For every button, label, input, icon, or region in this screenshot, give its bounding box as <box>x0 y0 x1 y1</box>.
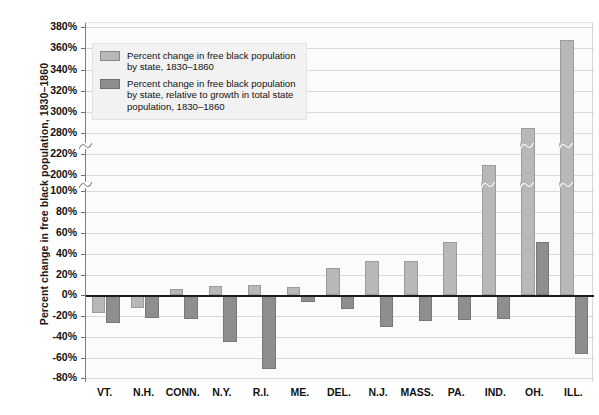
y-axis-tick-label: 300% <box>3 105 77 117</box>
y-axis-tick-label: 40% <box>3 247 77 259</box>
y-axis-tick-label: -40% <box>3 330 77 342</box>
y-axis-tick-mark <box>81 191 85 192</box>
y-axis-tick-label: 200% <box>3 168 77 180</box>
y-axis-tick-label: 380% <box>3 20 77 32</box>
y-axis-tick-label: -60% <box>3 351 77 363</box>
bar <box>184 295 198 319</box>
legend-entry-label: Percent change in free black population … <box>127 50 296 73</box>
gridline <box>86 316 594 317</box>
gridline <box>86 254 594 255</box>
y-axis-tick-label: 340% <box>3 63 77 75</box>
y-axis-tick-label: 0% <box>3 288 77 300</box>
y-axis-tick-label: 280% <box>3 126 77 138</box>
y-axis-tick-mark <box>81 133 85 134</box>
bar <box>404 261 418 295</box>
legend-swatch-icon <box>100 51 120 61</box>
bar <box>223 295 237 342</box>
y-axis-tick-mark <box>81 295 85 296</box>
gridline <box>86 275 594 276</box>
bar <box>458 295 472 320</box>
y-axis-tick-mark <box>81 48 85 49</box>
y-axis-tick-label: 320% <box>3 84 77 96</box>
gridline <box>86 337 594 338</box>
y-axis-tick-label: 360% <box>3 41 77 53</box>
y-axis-tick-mark <box>81 175 85 176</box>
bar <box>575 295 589 354</box>
bar <box>341 295 355 309</box>
bar <box>419 295 433 321</box>
y-axis-tick-mark <box>81 27 85 28</box>
bar <box>497 295 511 319</box>
chart-root: Percent change in free black population,… <box>0 0 599 415</box>
bar <box>145 295 159 318</box>
y-axis-tick-label: 220% <box>3 147 77 159</box>
bar <box>262 295 276 369</box>
legend-entry: Percent change in free black population … <box>100 50 296 73</box>
gridline <box>86 154 594 155</box>
gridline <box>86 175 594 176</box>
gridline <box>86 191 594 192</box>
y-axis-tick-label: 20% <box>3 268 77 280</box>
y-axis-tick-label: 60% <box>3 226 77 238</box>
y-axis-tick-mark <box>81 254 85 255</box>
legend-entry-label: Percent change in free black population … <box>127 78 296 112</box>
bar <box>326 268 340 295</box>
bar <box>209 286 223 295</box>
legend-swatch-icon <box>100 79 120 89</box>
y-axis-tick-label: -80% <box>3 371 77 383</box>
y-axis-tick-mark <box>81 316 85 317</box>
y-axis-tick-mark <box>81 378 85 379</box>
bar <box>365 261 379 295</box>
bar <box>380 295 394 327</box>
gridline <box>86 378 594 379</box>
y-axis-tick-mark <box>81 358 85 359</box>
gridline <box>86 233 594 234</box>
bar <box>92 295 106 313</box>
x-axis-tick-label: ILL. <box>541 386 599 398</box>
bar <box>521 128 535 295</box>
gridline <box>86 212 594 213</box>
bar <box>443 242 457 295</box>
legend-entry: Percent change in free black population … <box>100 78 296 112</box>
gridline <box>86 27 594 28</box>
bar <box>536 242 550 295</box>
legend: Percent change in free black population … <box>92 43 307 120</box>
y-axis-tick-mark <box>81 337 85 338</box>
bar <box>287 287 301 295</box>
y-axis-tick-mark <box>81 112 85 113</box>
gridline <box>86 358 594 359</box>
bar <box>482 165 496 296</box>
y-axis-tick-label: -20% <box>3 309 77 321</box>
y-axis-tick-label: 80% <box>3 205 77 217</box>
y-axis-tick-mark <box>81 212 85 213</box>
y-axis-tick-mark <box>81 91 85 92</box>
zero-line <box>86 295 594 297</box>
y-axis-tick-mark <box>81 70 85 71</box>
y-axis-tick-mark <box>81 275 85 276</box>
gridline <box>86 133 594 134</box>
bar <box>106 295 120 323</box>
y-axis-tick-label: 100% <box>3 184 77 196</box>
y-axis-tick-mark <box>81 154 85 155</box>
bar <box>560 40 574 295</box>
y-axis-tick-mark <box>81 233 85 234</box>
bar <box>248 285 262 295</box>
